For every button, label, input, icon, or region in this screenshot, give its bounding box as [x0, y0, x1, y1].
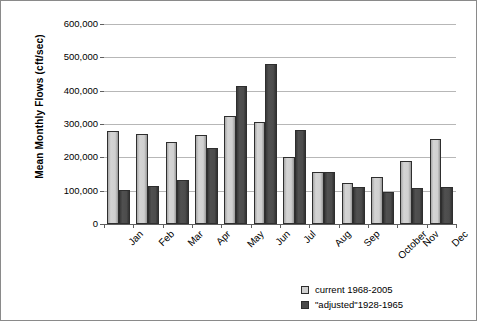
x-tick-label: Aug: [333, 229, 353, 249]
x-tick-label: May: [245, 229, 265, 249]
bar: [119, 190, 131, 224]
x-tick-mark: [133, 224, 134, 228]
legend-swatch-icon: [301, 286, 309, 294]
y-tick-label: 0: [93, 219, 98, 229]
bar: [224, 116, 236, 224]
bar: [371, 177, 383, 224]
bar-group: [368, 24, 397, 224]
x-tick-mark: [368, 224, 369, 228]
x-tick-mark: [251, 224, 252, 228]
bar-group: [104, 24, 133, 224]
x-tick-mark: [104, 224, 105, 228]
bar-group: [163, 24, 192, 224]
bar: [400, 161, 412, 224]
bar: [430, 139, 442, 224]
bar: [265, 64, 277, 224]
x-tick-label: Apr: [215, 229, 233, 247]
y-tick-label: 400,000: [64, 86, 98, 96]
bar: [148, 186, 160, 224]
y-tick-label: 100,000: [64, 186, 98, 196]
x-tick-mark: [192, 224, 193, 228]
bar: [207, 148, 219, 224]
bar-group: [427, 24, 456, 224]
x-tick-mark: [339, 224, 340, 228]
bar: [412, 188, 424, 224]
bar-group: [192, 24, 221, 224]
bar: [136, 134, 148, 224]
x-tick-label: Sep: [362, 229, 382, 249]
x-tick-mark: [397, 224, 398, 228]
y-tick-label: 300,000: [64, 119, 98, 129]
bar-group: [133, 24, 162, 224]
bar: [353, 187, 365, 224]
chart-legend: current 1968-2005 "adjusted"1928-1965: [301, 282, 403, 312]
x-tick-mark: [221, 224, 222, 228]
y-tick-label: 200,000: [64, 153, 98, 163]
y-tick-label: 500,000: [64, 53, 98, 63]
bar: [441, 187, 453, 224]
bar: [383, 192, 395, 224]
x-tick-mark: [427, 224, 428, 228]
bar-group: [251, 24, 280, 224]
y-axis-title: Mean Monthly Flows (cft/sec): [34, 7, 45, 207]
bar-group: [339, 24, 368, 224]
bar: [177, 180, 189, 224]
x-tick-label: Jun: [274, 229, 292, 247]
x-tick-label: Mar: [186, 229, 205, 248]
bar: [166, 142, 178, 224]
plot-area: 600,000500,000400,000300,000200,000100,0…: [104, 24, 456, 224]
x-tick-mark: [280, 224, 281, 228]
x-tick-label: Jul: [302, 229, 318, 245]
legend-item: current 1968-2005: [301, 282, 403, 297]
x-tick-label: Dec: [450, 229, 470, 249]
x-tick-mark: [163, 224, 164, 228]
x-tick-mark: [456, 224, 457, 228]
bar-group: [397, 24, 426, 224]
legend-item-label: current 1968-2005: [315, 285, 393, 295]
y-tick-label: 600,000: [64, 19, 98, 29]
chart-frame: Mean Monthly Flows (cft/sec) 600,000500,…: [0, 0, 477, 321]
bar: [283, 157, 295, 224]
bar-group: [280, 24, 309, 224]
bar: [342, 183, 354, 224]
legend-item: "adjusted"1928-1965: [301, 297, 403, 312]
bar: [195, 135, 207, 224]
legend-item-label: "adjusted"1928-1965: [315, 300, 403, 310]
legend-swatch-icon: [301, 301, 309, 309]
bar-group: [221, 24, 250, 224]
bar: [254, 122, 266, 224]
x-tick-label: Feb: [157, 229, 176, 248]
bar: [107, 131, 119, 224]
bar: [324, 172, 336, 224]
bar: [312, 172, 324, 224]
bar: [295, 130, 307, 224]
bar-group: [309, 24, 338, 224]
bar: [236, 86, 248, 224]
x-tick-label: Jan: [127, 229, 145, 247]
